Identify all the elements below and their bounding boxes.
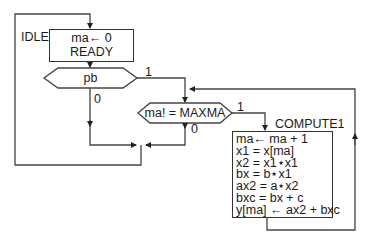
state-name-compute1: COMPUTE1 [275, 118, 344, 131]
maxma-true-line [232, 113, 265, 130]
pb-false-label: 0 [94, 93, 101, 106]
compute-action-7: y[ma] ← ax2 + bxc [236, 205, 332, 217]
idle-action-2: READY [50, 46, 133, 60]
pb-true-line [137, 78, 185, 102]
pb-true-label: 1 [145, 66, 152, 79]
state-name-idle: IDLE [21, 31, 49, 44]
state-box-idle: ma← 0 READY [49, 29, 134, 62]
maxma-false-line [146, 123, 185, 145]
state-box-compute1: ma← ma + 1 x1 = x[ma] x2 = x1⋆x1 bx = b⋆… [232, 131, 333, 218]
decision-maxma-label: ma! = MAXMA [144, 106, 226, 120]
maxma-true-label: 1 [237, 101, 244, 114]
idle-action-1: ma← 0 [50, 32, 133, 46]
decision-pb-label: pb [58, 71, 123, 85]
maxma-false-label: 0 [191, 123, 198, 136]
